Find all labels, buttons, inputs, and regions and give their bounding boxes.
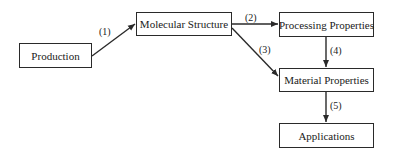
node-label: Material Properties: [284, 74, 369, 86]
edge-label-4: (4): [330, 45, 342, 56]
node-label: Molecular Structure: [140, 18, 228, 30]
node-molecular-structure: Molecular Structure: [136, 12, 232, 36]
node-production: Production: [19, 43, 92, 68]
edge-label-5: (5): [330, 100, 342, 111]
node-label: Processing Properties: [279, 19, 374, 31]
node-label: Production: [31, 50, 79, 62]
arrow-3: [232, 28, 278, 76]
node-processing-properties: Processing Properties: [279, 12, 374, 37]
node-applications: Applications: [279, 123, 374, 148]
edge-label-3: (3): [259, 44, 271, 55]
node-label: Applications: [298, 130, 354, 142]
node-material-properties: Material Properties: [279, 68, 374, 92]
edge-label-1: (1): [99, 26, 111, 37]
edge-label-2: (2): [245, 12, 257, 23]
